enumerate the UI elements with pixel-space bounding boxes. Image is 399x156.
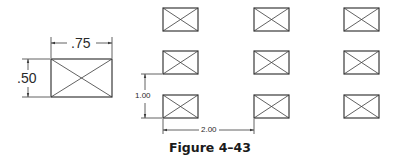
array-cell-r2c3 bbox=[344, 51, 379, 74]
row-spacing-label: 1.00 bbox=[135, 92, 151, 100]
height-dimension-label: .50 bbox=[17, 71, 36, 85]
single-rect-symbol bbox=[51, 59, 112, 97]
column-spacing-label: 2.00 bbox=[201, 126, 217, 134]
array-cell-r1c1 bbox=[163, 8, 198, 31]
array-cell-r1c2 bbox=[254, 8, 289, 31]
width-dimension-label: .75 bbox=[71, 36, 90, 50]
array-cell-r3c3 bbox=[344, 95, 379, 118]
array-cell-r1c3 bbox=[344, 8, 379, 31]
array-cell-r2c2 bbox=[254, 51, 289, 74]
rect-array bbox=[163, 8, 379, 118]
figure-caption: Figure 4–43 bbox=[0, 140, 399, 155]
array-cell-r3c1 bbox=[163, 95, 198, 118]
array-cell-r2c1 bbox=[163, 51, 198, 74]
technical-drawing bbox=[0, 0, 399, 156]
array-cell-r3c2 bbox=[254, 95, 289, 118]
